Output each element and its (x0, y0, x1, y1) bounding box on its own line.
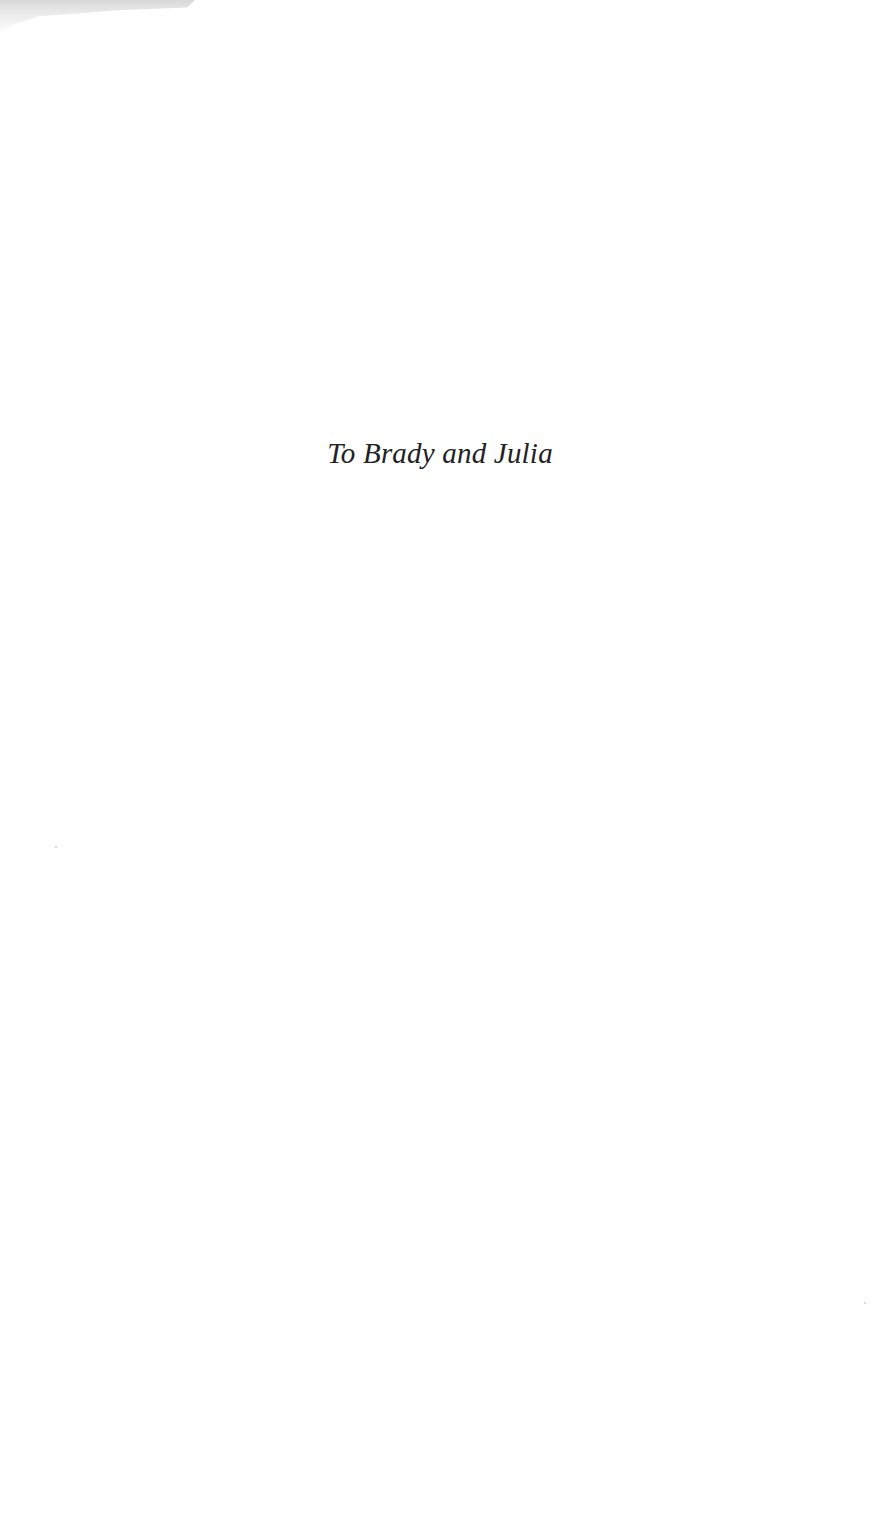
book-page: To Brady and Julia (0, 0, 880, 1524)
scan-speck (864, 1302, 866, 1304)
dedication-text: To Brady and Julia (0, 436, 880, 471)
scan-speck (55, 846, 57, 848)
scan-shadow-artifact (0, 0, 195, 34)
